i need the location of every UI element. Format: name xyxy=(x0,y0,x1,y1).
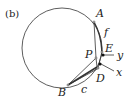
circle-diagram: (b) A f E P y D x B c xyxy=(0,0,132,104)
chord-P-D xyxy=(96,58,97,67)
label-P: P xyxy=(84,48,93,61)
arrow-x-line xyxy=(101,64,114,71)
chord-A-P xyxy=(94,22,96,58)
label-y: y xyxy=(116,49,124,62)
point-A xyxy=(93,21,95,23)
point-D xyxy=(97,67,99,69)
label-B: B xyxy=(57,86,66,99)
panel-label: (b) xyxy=(5,8,19,19)
label-E: E xyxy=(104,42,113,55)
label-x: x xyxy=(116,66,123,79)
point-P xyxy=(95,57,97,59)
label-D: D xyxy=(95,72,105,85)
label-c: c xyxy=(81,83,87,96)
label-A: A xyxy=(95,7,104,20)
point-E xyxy=(101,51,103,53)
point-B xyxy=(67,84,69,86)
label-f: f xyxy=(103,26,110,39)
